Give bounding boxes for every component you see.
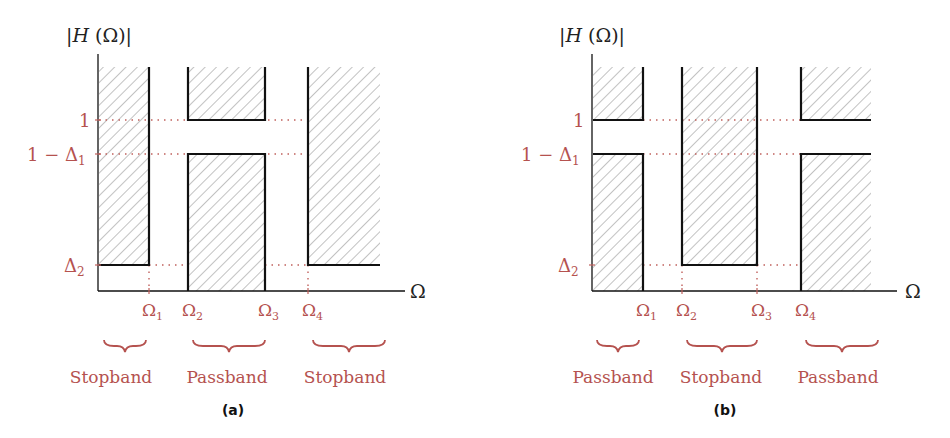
filter-specification-figure: |H (Ω)| Ω 1 1 − Δ1 Δ2 Ω1 Ω2 Ω3 Ω4 Stopba…	[0, 0, 950, 438]
passband-lower-forbidden-region	[188, 154, 265, 291]
passband-2-upper-region	[801, 67, 871, 120]
band-braces	[597, 340, 878, 352]
band-label-2: Passband	[186, 367, 267, 387]
brace-icon	[597, 340, 639, 352]
x-tick-omega1: Ω1	[142, 300, 163, 323]
x-tick-omega3: Ω3	[751, 300, 772, 323]
brace-icon	[806, 340, 878, 352]
x-tick-omega3: Ω3	[258, 300, 279, 323]
passband-1-lower-region	[593, 154, 643, 291]
passband-2-lower-region	[801, 154, 871, 291]
band-label-1: Passband	[572, 367, 653, 387]
panel-b: |H (Ω)| Ω 1 1 − Δ1 Δ2 Ω1 Ω2 Ω3 Ω4 Passba…	[521, 24, 921, 418]
x-axis-label: Ω	[410, 280, 426, 302]
y-tick-1: 1	[79, 110, 90, 131]
panel-caption: (b)	[714, 402, 737, 418]
y-tick-delta2: Δ2	[558, 255, 579, 279]
x-axis-label: Ω	[905, 280, 921, 302]
y-tick-1: 1	[573, 110, 584, 131]
band-braces	[104, 340, 385, 352]
stopband-1-region	[99, 67, 149, 265]
brace-icon	[313, 340, 385, 352]
brace-icon	[193, 340, 265, 352]
stopband-region	[682, 67, 757, 265]
band-label-2: Stopband	[680, 367, 763, 387]
passband-1-upper-region	[593, 67, 643, 120]
x-tick-omega2: Ω2	[182, 300, 203, 323]
band-label-1: Stopband	[70, 367, 153, 387]
panel-caption: (a)	[222, 402, 244, 418]
passband-upper-forbidden-region	[188, 67, 265, 120]
x-tick-omega4: Ω4	[795, 300, 816, 323]
y-tick-1-minus-delta1: 1 − Δ1	[27, 144, 86, 168]
brace-icon	[687, 340, 757, 352]
y-tick-delta2: Δ2	[64, 255, 85, 279]
stopband-2-region	[308, 67, 380, 265]
panel-a: |H (Ω)| Ω 1 1 − Δ1 Δ2 Ω1 Ω2 Ω3 Ω4 Stopba…	[27, 24, 426, 418]
band-label-3: Stopband	[304, 367, 387, 387]
brace-icon	[104, 340, 146, 352]
x-tick-omega4: Ω4	[302, 300, 323, 323]
y-tick-1-minus-delta1: 1 − Δ1	[521, 144, 580, 168]
x-tick-omega1: Ω1	[636, 300, 657, 323]
y-axis-label: |H (Ω)|	[66, 24, 132, 47]
x-tick-omega2: Ω2	[676, 300, 697, 323]
y-axis-label: |H (Ω)|	[559, 24, 625, 47]
band-label-3: Passband	[797, 367, 878, 387]
